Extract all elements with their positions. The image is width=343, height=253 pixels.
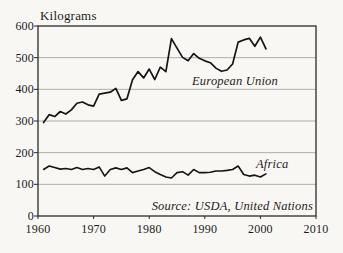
y-tick-label: 300 [0,114,34,129]
y-tick-label: 600 [0,19,34,34]
y-axis-title: Kilograms [40,8,97,24]
x-tick-label: 2000 [240,222,280,237]
source-note: Source: USDA, United Nations [152,199,313,214]
y-tick-label: 400 [0,82,34,97]
series-line-africa [44,166,266,178]
x-tick-label: 1980 [129,222,169,237]
series-label-european-union: European Union [192,74,278,89]
line-chart-canvas [0,0,343,253]
y-tick-label: 500 [0,51,34,66]
chart-page: Kilograms European Union Africa Source: … [0,0,343,253]
x-tick-label: 2010 [296,222,336,237]
x-tick-label: 1960 [18,222,58,237]
y-tick-label: 100 [0,177,34,192]
y-tick-label: 200 [0,146,34,161]
x-tick-label: 1970 [74,222,114,237]
x-tick-label: 1990 [185,222,225,237]
series-label-africa: Africa [256,157,288,172]
